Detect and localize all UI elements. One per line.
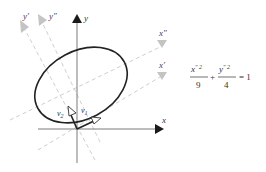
term1-numerator: x″ 2 bbox=[190, 64, 202, 74]
x-prime-label: x′ bbox=[158, 60, 166, 70]
x-axis-arrow-icon bbox=[155, 124, 164, 134]
plus-sign: + bbox=[210, 72, 215, 82]
term2-denominator: 4 bbox=[224, 80, 229, 90]
ellipse-equation: x″ 2 9 + y″ 2 4 = 1 bbox=[190, 64, 251, 90]
y-double-prime-axis-line bbox=[42, 22, 100, 142]
y-axis-arrow-icon bbox=[72, 14, 82, 23]
ellipse-rotation-diagram: x y y′ y″ x″ x′ v2 v1 x″ 2 9 + y″ 2 4 = … bbox=[0, 0, 266, 172]
x-double-prime-label: x″ bbox=[158, 28, 167, 38]
term2-numerator: y″ 2 bbox=[218, 64, 230, 74]
v2-arrow-icon bbox=[68, 106, 76, 116]
x-axis-label: x bbox=[161, 115, 166, 125]
x-prime-arrow-icon bbox=[157, 72, 167, 80]
v2-label: v2 bbox=[57, 109, 64, 119]
v1-label: v1 bbox=[81, 106, 88, 116]
y-double-prime-arrow-icon bbox=[38, 14, 47, 26]
term1-denominator: 9 bbox=[196, 80, 201, 90]
main-axes bbox=[38, 22, 156, 163]
v1-arrow-icon bbox=[91, 117, 101, 124]
y-axis-label: y bbox=[83, 13, 88, 23]
y-double-prime-label: y″ bbox=[48, 11, 57, 21]
y-prime-label: y′ bbox=[22, 11, 30, 21]
equals-one: = 1 bbox=[239, 72, 251, 82]
rotated-axes bbox=[10, 22, 160, 160]
x-double-prime-arrow-icon bbox=[157, 40, 167, 48]
y-prime-arrow-icon bbox=[20, 20, 29, 33]
